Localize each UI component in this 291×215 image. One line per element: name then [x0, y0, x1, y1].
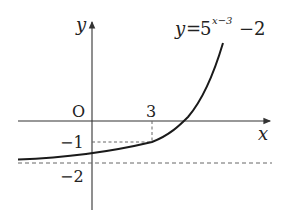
function-label: y = 5 x−3 −2	[174, 15, 266, 39]
svg-text:=: =	[186, 18, 201, 39]
graph: y x O 3 −1 −2 y = 5 x−3 −2	[0, 0, 291, 215]
svg-text:x−3: x−3	[212, 15, 232, 26]
y-tick-minus-2: −2	[60, 167, 84, 186]
y-tick-minus-1: −1	[60, 133, 84, 152]
svg-text:5: 5	[200, 18, 211, 39]
origin-label: O	[72, 102, 85, 121]
svg-text:−2: −2	[239, 18, 266, 39]
svg-text:y: y	[174, 18, 186, 39]
x-tick-3: 3	[146, 102, 156, 121]
y-axis-label: y	[75, 14, 87, 35]
x-axis-label: x	[258, 123, 268, 144]
